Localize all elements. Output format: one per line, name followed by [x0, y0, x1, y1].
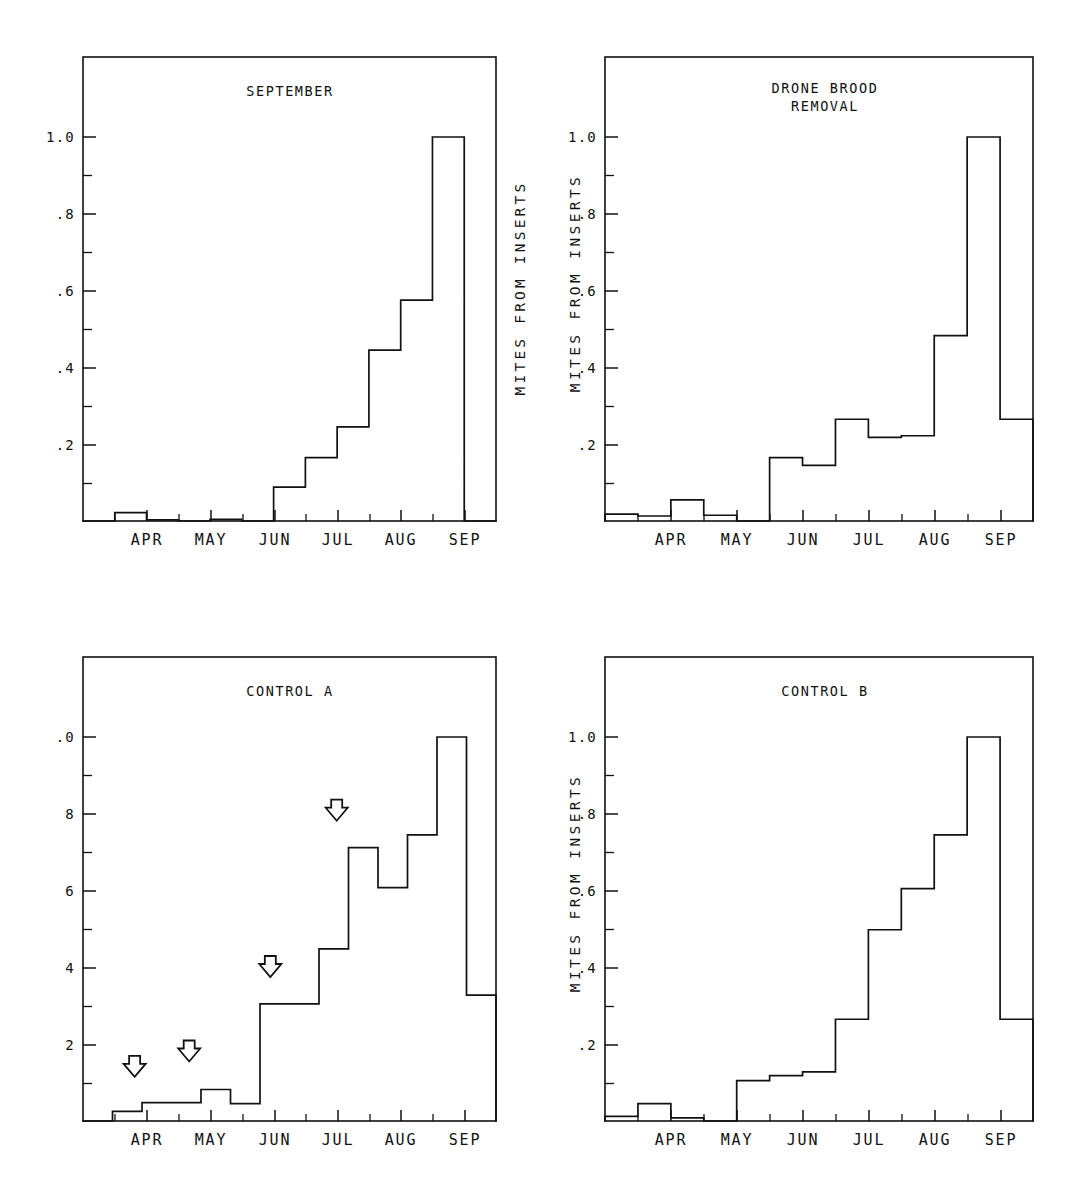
x-tick-label: AUG [919, 531, 952, 549]
y-tick-label: .0 [56, 729, 75, 745]
x-tick-label: APR [131, 531, 164, 549]
panel-title-line1: DRONE BROOD [771, 80, 878, 96]
x-tick-label: JUN [787, 531, 820, 549]
y-tick-label: .8 [56, 206, 75, 222]
y-axis-title-drone-brood: MITES FROM INSERTS [545, 90, 575, 490]
plot-frame [83, 657, 496, 1121]
y-axis-labels: .0 8 6 4 2 [56, 729, 75, 1053]
x-tick-label: SEP [449, 1131, 482, 1149]
panel-title: CONTROL A [246, 683, 334, 699]
y-tick-label: 8 [65, 806, 75, 822]
y-axis-ticks [605, 737, 618, 1084]
y-tick-label: 2 [65, 1037, 75, 1053]
y-axis-ticks [83, 737, 96, 1084]
y-tick-label: 1.0 [46, 129, 75, 145]
x-axis-labels: APR MAY JUN JUL AUG SEP [655, 531, 1018, 549]
panel-control-b: CONTROL B 1.0 .8 .6 .4 .2 [540, 600, 1080, 1194]
x-tick-label: MAY [195, 531, 228, 549]
x-tick-label: AUG [385, 1131, 418, 1149]
y-axis-labels: 1.0 .8 .6 .4 .2 [46, 129, 75, 453]
x-tick-label: AUG [385, 531, 418, 549]
x-tick-label: JUL [853, 1131, 886, 1149]
x-tick-label: SEP [985, 1131, 1018, 1149]
y-axis-title-text: MITES FROM INSERTS [567, 683, 583, 1083]
treatment-down-arrow-icon [124, 1056, 146, 1077]
x-tick-label: MAY [721, 1131, 754, 1149]
plot-frame [83, 57, 496, 521]
y-tick-label: .2 [56, 437, 75, 453]
x-tick-label: MAY [195, 1131, 228, 1149]
panel-control-a: CONTROL A .0 8 6 4 2 [0, 600, 540, 1194]
plot-frame [605, 57, 1033, 521]
treatment-down-arrow-icon [326, 800, 348, 821]
panel-drone-brood-removal: DRONE BROOD REMOVAL MITES FROM INSERTS 1… [540, 0, 1080, 600]
panel-september: SEPTEMBER 1.0 .8 .6 .4 .2 [0, 0, 540, 600]
x-axis-labels: APR MAY JUN JUL AUG SEP [131, 1131, 482, 1149]
treatment-arrow-markers [124, 800, 348, 1077]
x-tick-label: APR [655, 531, 688, 549]
x-axis-ticks [638, 510, 1001, 521]
four-panel-step-chart-figure: SEPTEMBER 1.0 .8 .6 .4 .2 [0, 0, 1080, 1194]
x-tick-label: JUL [853, 531, 886, 549]
x-tick-label: MAY [721, 531, 754, 549]
y-axis-title-control-b: MITES FROM INSERTS [545, 690, 575, 1090]
y-tick-label: .4 [56, 360, 75, 376]
treatment-down-arrow-icon [259, 956, 281, 977]
x-tick-label: SEP [985, 531, 1018, 549]
x-tick-label: SEP [449, 531, 482, 549]
step-series [605, 737, 1033, 1121]
x-tick-label: JUL [322, 531, 355, 549]
x-tick-label: JUL [322, 1131, 355, 1149]
x-axis-ticks [115, 1110, 465, 1121]
panel-title: CONTROL B [781, 683, 869, 699]
step-series [83, 137, 496, 521]
y-tick-label: .6 [56, 283, 75, 299]
panel-title-line2: REMOVAL [791, 98, 859, 114]
x-tick-label: JUN [259, 531, 292, 549]
x-tick-label: JUN [259, 1131, 292, 1149]
x-tick-label: APR [131, 1131, 164, 1149]
y-axis-ticks [605, 137, 618, 484]
x-tick-label: JUN [787, 1131, 820, 1149]
y-axis-title-text: MITES FROM INSERTS [567, 83, 583, 483]
x-axis-ticks [638, 1110, 1001, 1121]
x-axis-labels: APR MAY JUN JUL AUG SEP [655, 1131, 1018, 1149]
x-tick-label: AUG [919, 1131, 952, 1149]
plot-frame [605, 657, 1033, 1121]
y-axis-ticks [83, 137, 96, 484]
x-tick-label: APR [655, 1131, 688, 1149]
y-tick-label: 4 [65, 960, 75, 976]
y-tick-label: 6 [65, 883, 75, 899]
x-axis-labels: APR MAY JUN JUL AUG SEP [131, 531, 482, 549]
y-axis-title: MITES FROM INSERTS [512, 181, 528, 396]
panel-title: SEPTEMBER [246, 83, 334, 99]
step-series [605, 137, 1033, 521]
treatment-down-arrow-icon [178, 1040, 200, 1061]
